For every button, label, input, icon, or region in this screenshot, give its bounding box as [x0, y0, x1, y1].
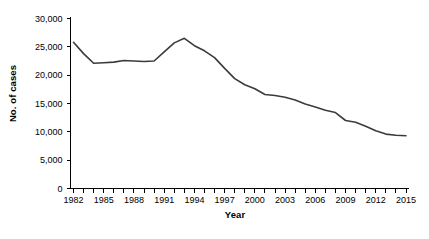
y-tick-label: 15,000: [35, 99, 63, 109]
x-axis-title: Year: [180, 209, 290, 220]
x-tick-label: 2006: [305, 195, 325, 205]
y-tick-label: 25,000: [35, 42, 63, 52]
y-tick-label: 10,000: [35, 127, 63, 137]
x-tick-label: 1994: [184, 195, 204, 205]
x-tick-label: 2003: [275, 195, 295, 205]
y-tick-label: 20,000: [35, 70, 63, 80]
x-tick-label: 1988: [124, 195, 144, 205]
x-axis-tick-labels: 1982198519881991199419972000200320062009…: [63, 195, 416, 205]
y-tick-label: 30,000: [35, 14, 63, 24]
y-tick-label: 5,000: [40, 155, 63, 165]
x-axis-ticks: [74, 189, 407, 193]
x-tick-label: 2000: [245, 195, 265, 205]
x-tick-label: 1982: [63, 195, 83, 205]
x-tick-label: 2009: [336, 195, 356, 205]
y-tick-label: 0: [57, 184, 62, 194]
x-tick-label: 1997: [215, 195, 235, 205]
y-axis-title: No. of cases: [7, 59, 18, 129]
x-tick-label: 2015: [396, 195, 416, 205]
x-tick-label: 2012: [366, 195, 386, 205]
data-series-line: [74, 38, 407, 135]
line-chart: 30,00025,00020,00015,00010,0005,0000 198…: [0, 0, 429, 239]
chart-plot-area: 30,00025,00020,00015,00010,0005,0000 198…: [0, 0, 429, 239]
x-tick-label: 1985: [94, 195, 114, 205]
x-tick-label: 1991: [154, 195, 174, 205]
y-axis-ticks: 30,00025,00020,00015,00010,0005,0000: [35, 14, 71, 194]
